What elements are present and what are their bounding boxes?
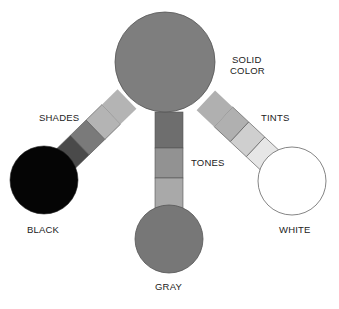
solid-label-line1: SOLID	[230, 54, 265, 65]
tints-label: TINTS	[261, 112, 289, 123]
solid-label-line2: COLOR	[230, 65, 265, 76]
solid-color-circle	[115, 12, 215, 112]
solid-color-label: SOLID COLOR	[230, 54, 265, 76]
tones-segment-mid	[155, 148, 183, 178]
tones-bar	[155, 112, 183, 210]
color-diagram	[0, 0, 339, 309]
white-circle	[258, 147, 326, 215]
white-label: WHITE	[279, 224, 311, 235]
shades-label: SHADES	[39, 112, 79, 123]
black-label: BLACK	[27, 224, 59, 235]
gray-circle	[135, 205, 203, 273]
tones-segment-dark	[155, 112, 183, 148]
black-circle	[10, 146, 78, 214]
gray-label: GRAY	[155, 281, 182, 292]
tones-label: TONES	[191, 157, 225, 168]
